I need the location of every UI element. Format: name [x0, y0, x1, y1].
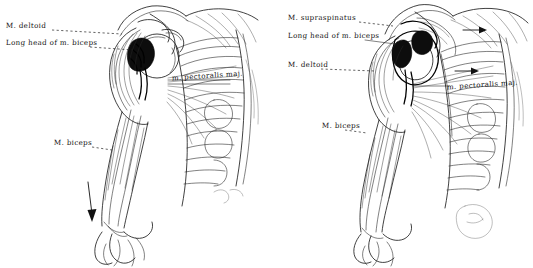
leader-deltoid-right — [321, 69, 375, 71]
label-long-head-of-m-biceps: Long head of m. biceps — [6, 39, 98, 46]
leader-long-head-biceps — [90, 47, 133, 50]
label-m-biceps-right: M. biceps — [322, 122, 360, 129]
right-dissection-view: M. supraspinatus Long head of m. biceps … — [267, 0, 533, 268]
leader-deltoid — [52, 30, 122, 34]
elbow-forearm-bones-right — [354, 224, 412, 266]
leader-supraspinatus — [359, 22, 393, 26]
biceps-muscle-belly-right — [360, 118, 405, 239]
elbow-forearm-bones — [95, 222, 153, 266]
label-m-deltoid-right: M. deltoid — [288, 61, 329, 68]
leader-long-head-biceps-right — [365, 40, 395, 44]
leader-biceps — [92, 147, 112, 150]
right-panel-drawing — [267, 0, 533, 268]
label-long-head-of-m-biceps-right: Long head of m. biceps — [288, 32, 380, 39]
humeral-head-right — [392, 31, 438, 106]
label-m-supraspinatus: M. supraspinatus — [288, 14, 356, 21]
leader-biceps-right — [345, 130, 367, 133]
label-m-biceps: M. biceps — [54, 139, 92, 146]
traction-arrow-down — [88, 182, 97, 222]
biceps-muscle-belly — [102, 110, 148, 237]
anatomical-figure: M. deltoid Long head of m. biceps m. pec… — [0, 0, 533, 268]
long-head-biceps-tendon-mass — [127, 38, 154, 100]
label-m-deltoid: M. deltoid — [6, 22, 47, 29]
ribcage — [167, 13, 258, 206]
left-dissection-view: M. deltoid Long head of m. biceps m. pec… — [0, 0, 266, 268]
